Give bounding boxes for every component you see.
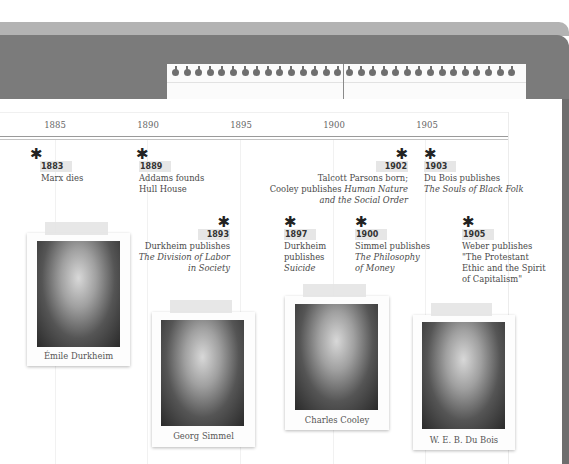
portrait-card-cooley: Charles Cooley xyxy=(285,296,389,430)
event-work-title: The Souls of Black Folk xyxy=(424,184,524,194)
event-year: 1893 xyxy=(198,229,230,240)
asterisk-icon: ✱ xyxy=(284,216,326,229)
portrait-caption: Georg Simmel xyxy=(152,431,255,441)
event-work-title: of Money xyxy=(355,263,395,273)
spiral-ring-icon xyxy=(182,66,194,76)
spiral-ring-icon xyxy=(170,66,182,76)
asterisk-icon: ✱ xyxy=(136,148,204,161)
spiral-ring-icon xyxy=(460,66,472,76)
spiral-ring-icon xyxy=(413,66,425,76)
event-year: 1900 xyxy=(355,229,387,240)
event-work-title: The Philosophy xyxy=(355,252,420,262)
axis-rule xyxy=(0,136,508,137)
timeline-event-1889: ✱ 1889 Addams founds Hull House xyxy=(136,148,204,195)
event-text: Marx dies xyxy=(30,173,83,184)
asterisk-icon: ✱ xyxy=(270,148,408,161)
asterisk-icon: ✱ xyxy=(424,148,524,161)
event-text: Talcott Parsons born; xyxy=(270,173,408,184)
event-text: Addams founds xyxy=(136,173,204,184)
asterisk-icon: ✱ xyxy=(30,148,83,161)
spiral-ring-icon xyxy=(344,66,356,76)
spiral-ring-icon xyxy=(251,66,263,76)
axis-year-label: 1905 xyxy=(416,120,438,130)
timeline-event-1900: ✱ 1900 Simmel publishes The Philosophy o… xyxy=(355,216,430,274)
spiral-ring-icon xyxy=(286,66,298,76)
tape-strip xyxy=(431,303,492,316)
spiral-ring-icon xyxy=(216,66,228,76)
spiral-ring-icon xyxy=(309,66,321,76)
spiral-ring-icon xyxy=(193,66,205,76)
notebook-pad xyxy=(167,64,526,99)
spiral-ring-icon xyxy=(356,66,368,76)
tape-strip xyxy=(170,300,232,313)
timeline-event-1905: ✱ 1905 Weber publishes "The Protestant E… xyxy=(462,216,546,285)
pad-rule-line xyxy=(167,82,526,83)
spiral-ring-icon xyxy=(205,66,217,76)
spiral-ring-icon xyxy=(390,66,402,76)
spiral-ring-icon xyxy=(274,66,286,76)
event-text: Du Bois publishes xyxy=(424,173,524,184)
portrait-card-simmel: Georg Simmel xyxy=(152,312,255,447)
tape-strip xyxy=(45,222,108,235)
portrait-card-durkheim: Émile Durkheim xyxy=(27,233,130,366)
event-work-title: and the Social Order xyxy=(320,195,408,205)
event-year: 1889 xyxy=(139,161,171,172)
spiral-ring-icon xyxy=(437,66,449,76)
portrait-caption: Charles Cooley xyxy=(285,415,389,425)
spiral-ring-icon xyxy=(228,66,240,76)
event-text: Hull House xyxy=(136,184,204,195)
portrait-card-dubois: W. E. B. Du Bois xyxy=(413,315,515,450)
spiral-ring-icon xyxy=(495,66,507,76)
spiral-ring-icon xyxy=(240,66,252,76)
spiral-ring-icon xyxy=(506,66,518,76)
event-year: 1905 xyxy=(462,229,494,240)
spiral-ring-icon xyxy=(425,66,437,76)
event-year: 1883 xyxy=(40,161,72,172)
event-text: "The Protestant xyxy=(462,252,546,263)
asterisk-icon: ✱ xyxy=(355,216,430,229)
axis-year-label: 1885 xyxy=(44,120,66,130)
timeline-event-1893: ✱ 1893 Durkheim publishes The Division o… xyxy=(139,216,230,274)
spiral-ring-icon xyxy=(379,66,391,76)
axis-year-label: 1890 xyxy=(137,120,159,130)
event-work-title: in Society xyxy=(188,263,230,273)
axis-rule xyxy=(0,139,508,140)
event-text: Durkheim publishes xyxy=(139,241,230,252)
timeline-event-1902: ✱ 1902 Talcott Parsons born; Cooley publ… xyxy=(270,148,408,206)
axis-year-label: 1900 xyxy=(323,120,345,130)
event-text: of Capitalism" xyxy=(462,274,546,285)
spiral-ring-icon xyxy=(321,66,333,76)
portrait-caption: W. E. B. Du Bois xyxy=(413,435,515,445)
event-year: 1897 xyxy=(284,229,316,240)
event-work-title: Suicide xyxy=(284,263,316,273)
spiral-ring-icon xyxy=(471,66,483,76)
pad-divider xyxy=(343,64,344,99)
portrait-photo xyxy=(37,241,120,347)
header-top-strip xyxy=(0,22,569,36)
timeline-event-1883: ✱ 1883 Marx dies xyxy=(30,148,83,184)
event-year: 1903 xyxy=(424,161,456,172)
spiral-ring-icon xyxy=(483,66,495,76)
spiral-ring-icon xyxy=(448,66,460,76)
event-year: 1902 xyxy=(376,161,408,172)
timeline-event-1897: ✱ 1897 Durkheim publishes Suicide xyxy=(284,216,326,274)
asterisk-icon: ✱ xyxy=(462,216,546,229)
portrait-photo xyxy=(422,322,505,429)
event-work-title: The Division of Labor xyxy=(139,252,230,262)
spiral-ring-icon xyxy=(402,66,414,76)
portrait-photo xyxy=(161,320,244,426)
portrait-photo xyxy=(295,304,378,410)
spiral-ring-icon xyxy=(298,66,310,76)
event-text: Ethic and the Spirit xyxy=(462,263,546,274)
event-text: publishes xyxy=(284,252,326,263)
spiral-binding xyxy=(170,66,526,76)
event-text: Durkheim xyxy=(284,241,326,252)
spiral-ring-icon xyxy=(263,66,275,76)
portrait-caption: Émile Durkheim xyxy=(27,351,130,361)
event-text: Cooley publishes xyxy=(270,184,345,194)
event-text: Simmel publishes xyxy=(355,241,430,252)
page-right-edge xyxy=(562,99,569,464)
event-work-title: Human Nature xyxy=(344,184,408,194)
spiral-ring-icon xyxy=(367,66,379,76)
timeline-event-1903: ✱ 1903 Du Bois publishes The Souls of Bl… xyxy=(424,148,524,195)
